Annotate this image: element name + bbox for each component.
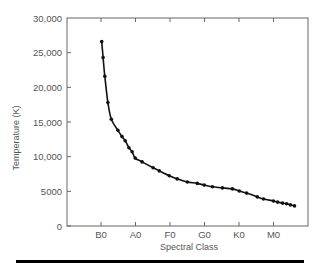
y-tick-labels: 0 5000 10,000 15,000 20,000 25,000 30,00…	[33, 13, 62, 232]
data-point	[289, 203, 293, 207]
data-point	[123, 139, 127, 143]
data-point	[110, 117, 114, 121]
data-point	[120, 135, 124, 139]
data-point	[211, 185, 215, 189]
x-tick-label: F0	[164, 229, 175, 240]
data-point	[262, 197, 266, 201]
x-tick-label: B0	[95, 229, 107, 240]
y-tick-label: 25,000	[33, 47, 62, 58]
data-point	[151, 166, 155, 170]
data-point	[106, 101, 110, 105]
data-point	[202, 183, 206, 187]
x-tick-label: A0	[130, 229, 142, 240]
data-point	[238, 189, 242, 193]
y-tick-label: 10,000	[33, 151, 62, 162]
data-point	[140, 160, 144, 164]
x-tick-labels: B0 A0 F0 G0 K0 M0	[95, 229, 280, 240]
data-point	[276, 200, 280, 204]
y-tick-label: 5000	[41, 186, 62, 197]
x-tick-label: K0	[233, 229, 245, 240]
data-point	[221, 186, 225, 190]
data-point	[127, 146, 131, 150]
data-point	[255, 195, 259, 199]
y-axis	[67, 53, 71, 226]
temperature-series	[100, 40, 296, 208]
data-point	[285, 202, 289, 206]
data-point	[101, 56, 105, 60]
data-point	[281, 201, 285, 205]
data-point	[272, 199, 276, 203]
data-point	[103, 74, 107, 78]
data-point	[133, 156, 137, 160]
x-axis-title: Spectral Class	[160, 242, 219, 252]
y-axis-title: Temperature (K)	[11, 105, 21, 170]
data-point	[186, 180, 190, 184]
data-point	[130, 150, 134, 154]
data-point	[293, 204, 297, 208]
data-point	[231, 187, 235, 191]
temperature-chart: 0 5000 10,000 15,000 20,000 25,000 30,00…	[0, 0, 319, 263]
x-tick-label: M0	[267, 229, 280, 240]
temperature-curve	[102, 42, 295, 206]
data-point	[168, 174, 172, 178]
data-point	[196, 182, 200, 186]
y-tick-label: 0	[57, 221, 62, 232]
y-tick-label: 30,000	[33, 13, 62, 24]
data-point	[158, 169, 162, 173]
y-tick-label: 15,000	[33, 117, 62, 128]
x-tick-label: G0	[198, 229, 211, 240]
data-point	[245, 191, 249, 195]
data-point	[116, 129, 120, 133]
y-tick-label: 20,000	[33, 82, 62, 93]
x-axis	[101, 18, 274, 226]
data-point	[100, 40, 104, 44]
data-point	[175, 177, 179, 181]
